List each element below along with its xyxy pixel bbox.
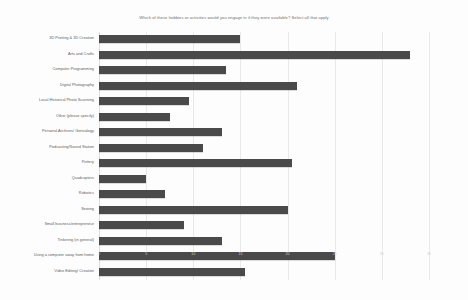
x-tick-label: 15: [238, 252, 242, 256]
category-label: Tinkering (in general): [8, 238, 94, 242]
bar[interactable]: [99, 237, 222, 245]
category-label: Personal Archives/ Genealogy: [8, 129, 94, 133]
bar-row: [99, 48, 429, 64]
bar[interactable]: [99, 190, 165, 198]
category-label: Other (please specify): [8, 114, 94, 118]
chart-title: Which of these hobbies or activities wou…: [0, 15, 468, 20]
bar[interactable]: [99, 35, 240, 43]
bar-row: [99, 63, 429, 79]
bar-row: [99, 234, 429, 250]
bar-row: [99, 203, 429, 219]
bar-row: [99, 187, 429, 203]
bar[interactable]: [99, 113, 170, 121]
bar-row: [99, 125, 429, 141]
bar[interactable]: [99, 144, 203, 152]
x-tick-label: 35: [427, 252, 431, 256]
category-label: Local Historical Photo Scanning: [8, 98, 94, 102]
category-label: Arts and Crafts: [8, 52, 94, 56]
gridline: [429, 32, 430, 280]
bar-row: [99, 265, 429, 281]
x-tick-label: 5: [145, 252, 147, 256]
category-label: Sewing: [8, 207, 94, 211]
bar[interactable]: [99, 268, 245, 276]
bar[interactable]: [99, 252, 335, 260]
bar[interactable]: [99, 51, 410, 59]
category-label: Digital Photography: [8, 83, 94, 87]
category-label: Pottery: [8, 160, 94, 164]
category-label: Using a computer away from home: [8, 253, 94, 257]
bar-row: [99, 79, 429, 95]
category-label: Computer Programming: [8, 67, 94, 71]
bar-row: [99, 218, 429, 234]
bar-row: [99, 94, 429, 110]
x-tick-label: 20: [286, 252, 290, 256]
category-label: 3D Printing & 3D Creation: [8, 36, 94, 40]
category-label: Video Editing/ Creation: [8, 269, 94, 273]
x-tick-label: 25: [333, 252, 337, 256]
bar[interactable]: [99, 97, 189, 105]
plot-area: [99, 32, 429, 280]
bar-chart: Which of these hobbies or activities wou…: [0, 0, 468, 300]
bar[interactable]: [99, 206, 288, 214]
x-tick-label: 10: [191, 252, 195, 256]
bar[interactable]: [99, 82, 297, 90]
category-label: Quadcopters: [8, 176, 94, 180]
category-label: Podcasting/Sound Station: [8, 145, 94, 149]
x-tick-label: 30: [380, 252, 384, 256]
bar-row: [99, 156, 429, 172]
bar-row: [99, 172, 429, 188]
bar[interactable]: [99, 159, 292, 167]
bar-row: [99, 32, 429, 48]
bar-row: [99, 141, 429, 157]
x-tick-label: 0: [98, 252, 100, 256]
bar[interactable]: [99, 128, 222, 136]
bar[interactable]: [99, 66, 226, 74]
category-label: Small business/entrepreneur: [8, 222, 94, 226]
bar-row: [99, 110, 429, 126]
category-label: Robotics: [8, 191, 94, 195]
bar[interactable]: [99, 221, 184, 229]
bar[interactable]: [99, 175, 146, 183]
